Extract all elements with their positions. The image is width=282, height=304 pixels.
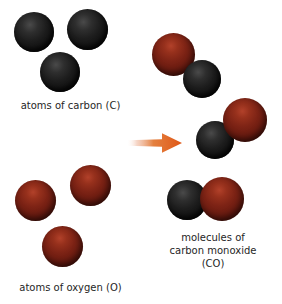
oxygen-atom: [223, 98, 267, 142]
molecule-diagram: atoms of carbon (C) atoms of oxygen (O): [0, 0, 282, 304]
oxygen-atom: [200, 177, 244, 221]
co-label-line-2: carbon monoxide: [144, 244, 282, 257]
co-group-label: molecules of carbon monoxide (CO): [144, 231, 282, 270]
carbon-atom: [67, 9, 108, 50]
carbon-atom: [183, 60, 221, 98]
oxygen-atom: [15, 180, 56, 221]
carbon-group-label: atoms of carbon (C): [0, 99, 141, 112]
oxygen-group-label: atoms of oxygen (O): [0, 281, 141, 294]
oxygen-atom: [42, 226, 83, 267]
co-label-line-3: (CO): [144, 257, 282, 270]
carbon-atom: [40, 52, 80, 92]
co-label-line-1: molecules of: [144, 231, 282, 244]
oxygen-atom: [70, 165, 111, 206]
carbon-atom: [14, 12, 54, 52]
reaction-arrow: [126, 131, 184, 155]
